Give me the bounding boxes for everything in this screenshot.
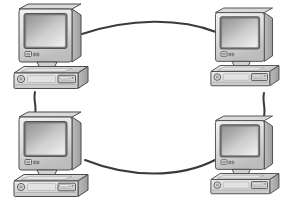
topology-canvas (0, 0, 299, 207)
node-pc-bottom-left[interactable] (14, 112, 88, 197)
link-right-cable (263, 93, 264, 116)
node-pc-bottom-right[interactable] (211, 116, 279, 194)
network-topology-diagram: Ring network topology (0, 0, 299, 207)
node-pc-top-right[interactable] (211, 8, 279, 86)
link-left-cable (34, 92, 35, 114)
link-top-cable (82, 22, 216, 34)
node-pc-top-left[interactable] (14, 4, 88, 89)
link-bottom-cable (85, 160, 215, 174)
